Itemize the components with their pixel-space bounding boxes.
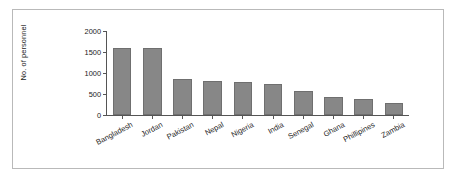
y-axis-tick-label: 0 <box>97 111 101 120</box>
bar-bangladesh[interactable] <box>113 48 132 115</box>
y-axis-tick-label: 1500 <box>85 48 101 57</box>
bar-phillipines[interactable] <box>354 99 373 115</box>
bar-zambia[interactable] <box>385 103 404 115</box>
y-axis-tick-labels: 0500100015002000 <box>60 24 104 120</box>
bar-nepal[interactable] <box>203 81 222 115</box>
bar-ghana[interactable] <box>324 97 343 115</box>
bar-slot <box>354 31 373 115</box>
y-axis-tick-label: 2000 <box>85 27 101 36</box>
bar-pakistan[interactable] <box>173 79 192 115</box>
bar-slot <box>385 31 404 115</box>
bar-slot <box>264 31 283 115</box>
bar-slot <box>143 31 162 115</box>
bars-group <box>107 31 407 115</box>
bar-slot <box>324 31 343 115</box>
y-axis-tick-label: 500 <box>89 90 101 99</box>
bar-chart: No. of personnel 0500100015002000 Bangla… <box>0 0 458 181</box>
y-axis-tick-label: 1000 <box>85 69 101 78</box>
bar-slot <box>113 31 132 115</box>
bar-slot <box>203 31 222 115</box>
bar-senegal[interactable] <box>294 91 313 115</box>
y-axis-title: No. of personnel <box>19 0 28 113</box>
bar-nigeria[interactable] <box>234 82 253 115</box>
bar-slot <box>294 31 313 115</box>
x-axis-tick-labels: BangladeshJordanPakistanNepalNigeriaIndi… <box>107 116 427 162</box>
bar-slot <box>173 31 192 115</box>
bar-india[interactable] <box>264 84 283 115</box>
bar-jordan[interactable] <box>143 48 162 115</box>
bar-slot <box>234 31 253 115</box>
